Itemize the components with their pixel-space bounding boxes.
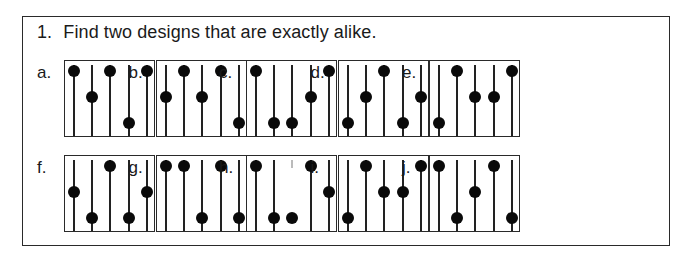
design-label: e.	[402, 63, 416, 83]
dot-top	[160, 160, 172, 172]
dot-top	[451, 65, 463, 77]
dot-bottom	[342, 117, 354, 129]
dot-top	[104, 65, 116, 77]
dot-middle	[469, 186, 481, 198]
design-box[interactable]	[429, 155, 520, 232]
dot-middle	[160, 91, 172, 103]
design-option[interactable]: e.	[402, 60, 527, 140]
design-label: i.	[311, 158, 320, 178]
dot-bottom	[196, 212, 208, 224]
design-option[interactable]: j.	[402, 155, 527, 235]
dot-bottom	[268, 212, 280, 224]
design-box[interactable]	[429, 60, 520, 137]
dot-middle	[378, 186, 390, 198]
dot-top	[250, 65, 262, 77]
dot-top	[378, 65, 390, 77]
dot-middle	[360, 91, 372, 103]
design-label: j.	[402, 158, 411, 178]
dot-bottom	[342, 212, 354, 224]
dot-middle	[196, 91, 208, 103]
question-number: 1.	[37, 22, 52, 42]
dot-top	[360, 160, 372, 172]
design-label: b.	[129, 63, 143, 83]
dot-top	[68, 65, 80, 77]
dot-middle	[86, 91, 98, 103]
design-label: a.	[37, 63, 51, 83]
dot-middle	[68, 186, 80, 198]
question-title: 1. Find two designs that are exactly ali…	[37, 22, 376, 43]
design-label: d.	[311, 63, 325, 83]
dot-top	[178, 160, 190, 172]
dot-bottom	[286, 212, 298, 224]
dot-top	[104, 160, 116, 172]
dot-bottom	[86, 212, 98, 224]
dot-top	[433, 160, 445, 172]
question-text: Find two designs that are exactly alike.	[63, 22, 376, 42]
dot-top	[250, 160, 262, 172]
dot-middle	[488, 91, 500, 103]
design-label: g.	[129, 158, 143, 178]
dot-bottom	[506, 212, 518, 224]
dot-top	[488, 160, 500, 172]
design-label: h.	[219, 158, 233, 178]
dot-middle	[469, 91, 481, 103]
design-label: f.	[37, 158, 46, 178]
dot-bottom	[433, 117, 445, 129]
vertical-line	[291, 160, 293, 168]
dot-top	[178, 65, 190, 77]
dot-top	[506, 65, 518, 77]
dot-bottom	[451, 212, 463, 224]
dot-bottom	[286, 117, 298, 129]
design-label: c.	[219, 63, 232, 83]
dot-bottom	[268, 117, 280, 129]
